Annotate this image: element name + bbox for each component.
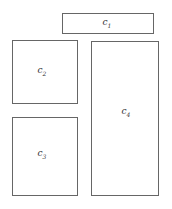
label-c2: c2 — [38, 65, 47, 77]
label-c4: c4 — [122, 106, 131, 118]
label-c1: c1 — [103, 17, 112, 29]
box-c4 — [91, 41, 159, 196]
label-c3: c3 — [38, 148, 47, 160]
